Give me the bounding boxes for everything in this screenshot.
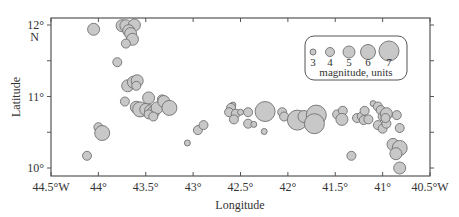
x-tick-label: 44.5°W — [32, 180, 70, 194]
x-tick-label: 43° — [185, 180, 202, 194]
earthquake-point — [364, 115, 373, 124]
y-axis-title: Latitude — [9, 77, 23, 117]
earthquake-point — [120, 97, 129, 106]
earthquake-point — [143, 92, 155, 104]
earthquake-point — [360, 106, 369, 115]
earthquake-point — [95, 126, 110, 141]
earthquake-point — [113, 58, 122, 67]
earthquake-point — [347, 151, 356, 160]
scatter-chart: 44.5°W44°43.5°43°42.5°42°41.5°41°40.5°W … — [0, 0, 459, 217]
x-tick-label: 41° — [374, 180, 391, 194]
y-tick-label: 10° — [27, 161, 44, 175]
x-tick-label: 43.5° — [133, 180, 159, 194]
legend-label: 3 — [310, 56, 316, 68]
earthquake-point — [392, 111, 401, 120]
x-tick-label: 40.5°W — [411, 180, 449, 194]
earthquake-point — [304, 114, 324, 134]
y-tick-label: 11° — [28, 90, 45, 104]
legend: 34567 magnitude, units — [305, 36, 407, 80]
x-axis-title: Longitude — [215, 198, 264, 212]
earthquake-point — [381, 114, 390, 123]
earthquake-point — [132, 81, 141, 90]
earthquake-point — [255, 102, 275, 122]
earthquake-point — [336, 113, 348, 125]
earthquake-point — [251, 121, 257, 127]
earthquake-point — [229, 115, 238, 124]
earthquake-point — [261, 129, 267, 135]
earthquake-point — [238, 109, 244, 115]
earthquake-point — [395, 124, 404, 133]
earthquake-point — [199, 121, 208, 130]
x-tick-label: 42.5° — [228, 180, 254, 194]
earthquake-point — [184, 140, 190, 146]
earthquake-point — [149, 112, 158, 121]
y-tick-sublabel: N — [30, 30, 39, 44]
earthquake-point — [244, 108, 253, 117]
x-tick-label: 44° — [90, 180, 107, 194]
earthquake-point — [390, 148, 402, 160]
earthquake-point — [88, 23, 100, 35]
x-tick-label: 41.5° — [322, 180, 348, 194]
x-tick-label: 42° — [279, 180, 296, 194]
legend-title: magnitude, units — [319, 66, 392, 78]
earthquake-point — [121, 39, 130, 48]
earthquake-point — [83, 151, 92, 160]
earthquake-point — [162, 100, 177, 115]
earthquake-point — [394, 162, 406, 174]
legend-marker — [310, 49, 316, 55]
